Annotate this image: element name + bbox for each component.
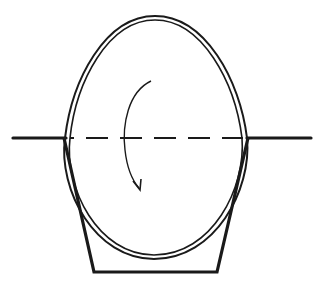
egg-in-cup-diagram [0,0,319,291]
diagram-canvas [0,0,319,291]
rotation-arrow [124,81,151,190]
cup-trapezoid [64,138,248,272]
rotation-arrow-curve [124,81,151,188]
